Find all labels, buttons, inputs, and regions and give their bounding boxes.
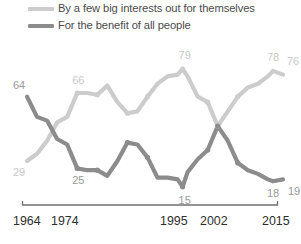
data-value-label: 15 [179,195,191,206]
data-point-marker [235,160,240,165]
data-point-marker [145,155,150,160]
data-value-label: 66 [72,75,84,86]
x-axis-tick-label: 1964 [13,215,41,228]
data-point-marker [95,92,100,97]
data-value-label: 79 [179,50,191,61]
data-value-label: 64 [13,80,25,91]
data-value-label: 29 [13,167,25,178]
data-point-marker [205,147,210,152]
series-line-all-people [27,97,283,187]
data-point-marker [125,140,130,145]
data-value-label: 18 [267,188,279,199]
data-point-marker [95,168,100,173]
x-axis-tick-label: 2002 [200,215,228,228]
data-point-marker [75,166,80,171]
x-axis-tick-label: 1974 [51,215,79,228]
data-point-marker [180,184,185,189]
data-value-label: 76 [287,56,299,67]
series-lines [27,69,283,187]
data-value-label: 78 [267,52,279,63]
series-line-big-interests [27,69,283,161]
x-axis [22,201,278,205]
data-point-marker [180,66,185,71]
data-value-label: 25 [72,175,84,186]
data-point-marker [75,90,80,95]
data-point-marker [145,94,150,99]
data-point-marker [205,100,210,105]
data-point-marker [215,124,220,129]
data-point-marker [125,111,130,116]
plot-area [0,0,301,244]
x-axis-tick-label: 2015 [262,215,290,228]
x-axis-tick-label: 1995 [160,215,188,228]
data-point-marker [235,94,240,99]
trust-in-government-line-chart: By a few big interests out for themselve… [0,0,301,244]
data-value-label: 19 [288,186,300,197]
